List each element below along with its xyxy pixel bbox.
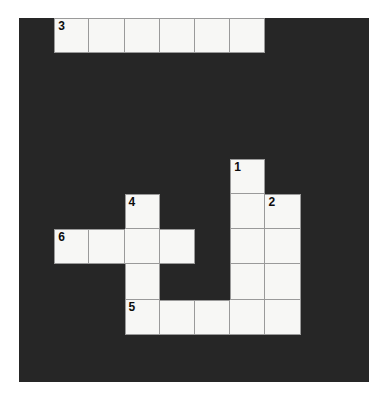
cell-number-label: 3 — [58, 19, 65, 33]
crossword-board: 314265 — [19, 18, 369, 382]
crossword-cell-numbered[interactable]: 6 — [54, 229, 89, 264]
cell-number-label: 4 — [129, 195, 136, 209]
crossword-cell[interactable] — [230, 18, 265, 53]
crossword-puzzle: 314265 — [0, 0, 384, 402]
crossword-cell-numbered[interactable]: 3 — [54, 18, 89, 53]
crossword-cell[interactable] — [160, 300, 195, 335]
cell-number-label: 2 — [268, 195, 275, 209]
crossword-cell[interactable] — [265, 264, 300, 299]
crossword-cell[interactable] — [125, 229, 160, 264]
crossword-cell-numbered[interactable]: 5 — [125, 300, 160, 335]
crossword-cell[interactable] — [160, 229, 195, 264]
crossword-cell[interactable] — [89, 229, 124, 264]
crossword-cell-numbered[interactable]: 2 — [265, 194, 300, 229]
crossword-cell[interactable] — [125, 264, 160, 299]
crossword-cell[interactable] — [89, 18, 124, 53]
crossword-cell[interactable] — [125, 18, 160, 53]
crossword-cell[interactable] — [265, 300, 300, 335]
crossword-cell[interactable] — [160, 18, 195, 53]
crossword-cell[interactable] — [230, 229, 265, 264]
crossword-cell-numbered[interactable]: 4 — [125, 194, 160, 229]
crossword-cell[interactable] — [265, 229, 300, 264]
crossword-cell[interactable] — [195, 300, 230, 335]
crossword-cell[interactable] — [230, 194, 265, 229]
crossword-cell[interactable] — [230, 264, 265, 299]
cell-number-label: 6 — [58, 230, 65, 244]
cell-number-label: 5 — [129, 300, 136, 314]
crossword-cell[interactable] — [230, 300, 265, 335]
cell-number-label: 1 — [234, 160, 241, 174]
crossword-cell-numbered[interactable]: 1 — [230, 159, 265, 194]
crossword-cell[interactable] — [195, 18, 230, 53]
